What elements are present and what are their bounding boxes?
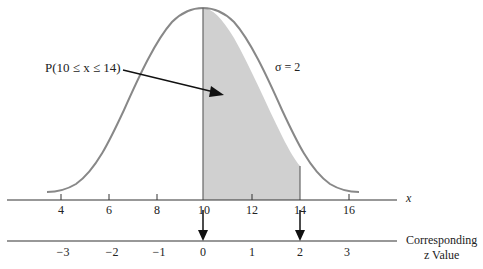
z-tick: −2: [106, 245, 119, 260]
x-tick: 16: [343, 203, 355, 218]
x-tick: 6: [106, 203, 112, 218]
z-label-line1: Corresponding: [406, 233, 477, 248]
z-label-line2: z Value: [406, 248, 477, 263]
z-tick: 3: [344, 245, 350, 260]
z-axis-label: Corresponding z Value: [406, 233, 477, 263]
x-tick: 4: [58, 203, 64, 218]
sigma-label: σ = 2: [275, 60, 300, 75]
z-tick: 0: [200, 245, 206, 260]
probability-label: P(10 ≤ x ≤ 14): [45, 60, 121, 76]
z-tick: 1: [249, 245, 255, 260]
x-tick: 12: [246, 203, 258, 218]
x-tick: 10: [198, 203, 210, 218]
x-tick: 8: [154, 203, 160, 218]
shaded-area: [203, 8, 300, 200]
x-axis-label: x: [406, 191, 411, 206]
z-tick: −3: [57, 245, 70, 260]
z-tick: 2: [297, 245, 303, 260]
x-tick: 14: [294, 203, 306, 218]
normal-curve-diagram: [0, 0, 483, 269]
z-tick: −1: [153, 245, 166, 260]
